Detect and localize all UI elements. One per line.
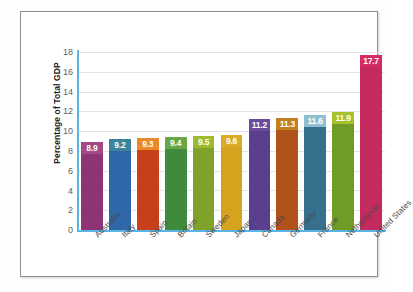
bar[interactable]: 9.3 <box>137 138 159 230</box>
bar-value-label: 11.9 <box>332 112 354 124</box>
bar-slot: 9.5 <box>193 52 215 230</box>
bar[interactable]: 9.4 <box>165 137 187 230</box>
x-axis-category-labels: AustraliaItalySpainBritainSwedenJapanCan… <box>78 233 385 292</box>
bar-slot: 9.6 <box>221 52 243 230</box>
bar-slot: 11.3 <box>276 52 298 230</box>
bar[interactable]: 11.9 <box>332 112 354 230</box>
bar-value-label: 17.7 <box>360 55 382 67</box>
bar-value-label: 9.4 <box>165 137 187 149</box>
y-tick-18: 18 <box>51 48 73 57</box>
bar-slot: 11.6 <box>304 52 326 230</box>
bar-value-label: 11.2 <box>249 119 271 131</box>
bar[interactable]: 8.9 <box>81 142 103 230</box>
bar-slot: 9.4 <box>165 52 187 230</box>
bar-slot: 11.2 <box>249 52 271 230</box>
bar[interactable]: 11.2 <box>249 119 271 230</box>
y-tick-2: 2 <box>51 206 73 215</box>
y-tick-0: 0 <box>51 226 73 235</box>
y-tick-4: 4 <box>51 187 73 196</box>
bar-slot: 17.7 <box>360 52 382 230</box>
bar-value-label: 8.9 <box>81 142 103 154</box>
bar-series: 8.99.29.39.49.59.611.211.311.611.917.7 <box>78 52 385 230</box>
bar-slot: 9.3 <box>137 52 159 230</box>
bar[interactable]: 9.5 <box>193 136 215 230</box>
bar-slot: 11.9 <box>332 52 354 230</box>
bar-slot: 8.9 <box>81 52 103 230</box>
bar-value-label: 9.6 <box>221 135 243 147</box>
bar-slot: 9.2 <box>109 52 131 230</box>
bar-value-label: 9.5 <box>193 136 215 148</box>
bar-value-label: 9.3 <box>137 138 159 150</box>
y-axis-tick-labels: 18 16 14 12 10 8 6 4 2 0 <box>47 12 73 292</box>
bar[interactable]: 17.7 <box>360 55 382 230</box>
y-tick-16: 16 <box>51 68 73 77</box>
y-tick-12: 12 <box>51 107 73 116</box>
y-tick-8: 8 <box>51 147 73 156</box>
y-tick-14: 14 <box>51 88 73 97</box>
y-tick-6: 6 <box>51 167 73 176</box>
bar-value-label: 11.6 <box>304 115 326 127</box>
y-tick-10: 10 <box>51 127 73 136</box>
chart-frame: Percentage of Total GDP 18 16 14 12 10 8… <box>20 11 378 277</box>
bar-value-label: 11.3 <box>276 118 298 130</box>
bar-value-label: 9.2 <box>109 139 131 151</box>
